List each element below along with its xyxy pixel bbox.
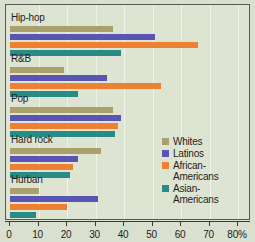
bar — [10, 26, 113, 32]
chart-legend: WhitesLatinosAfrican-AmericansAsian-Amer… — [162, 136, 248, 206]
legend-item: African-Americans — [162, 160, 248, 182]
x-tick — [123, 222, 124, 226]
bar — [10, 107, 113, 113]
legend-swatch-icon — [162, 185, 169, 192]
x-axis — [5, 221, 250, 222]
x-tick-label: 30 — [89, 229, 100, 240]
bar — [10, 115, 121, 121]
x-tick — [66, 222, 67, 226]
bar — [10, 204, 67, 210]
bars — [10, 26, 249, 58]
x-tick — [9, 222, 10, 226]
x-tick-label: 40 — [118, 229, 129, 240]
bar — [10, 196, 98, 202]
legend-item: Whites — [162, 136, 248, 147]
bar — [10, 148, 101, 154]
bar — [10, 42, 198, 48]
x-tick-label: 20 — [61, 229, 72, 240]
x-tick-label: 50 — [146, 229, 157, 240]
legend-item: Asian-Americans — [162, 183, 248, 205]
bar — [10, 123, 118, 129]
x-tick-label: 70 — [203, 229, 214, 240]
x-tick-label: 10 — [32, 229, 43, 240]
legend-label: Whites — [173, 136, 202, 147]
x-tick — [152, 222, 153, 226]
category-label: Hurban — [11, 175, 43, 185]
category-label: Hard rock — [11, 135, 53, 145]
bar — [10, 67, 64, 73]
x-tick — [38, 222, 39, 226]
category-label: Hip-hop — [11, 13, 45, 23]
bar-chart: Hip-hopR&BPopHard rockHurban WhitesLatin… — [0, 0, 255, 242]
legend-label: Asian-Americans — [173, 183, 218, 205]
legend-item: Latinos — [162, 148, 248, 159]
x-tick-label: 60 — [175, 229, 186, 240]
x-tick-label: 0 — [6, 229, 11, 240]
bars — [10, 67, 249, 99]
legend-label: African-Americans — [173, 160, 218, 182]
category-label: R&B — [11, 54, 31, 64]
bar — [10, 188, 39, 194]
x-tick — [209, 222, 210, 226]
bar — [10, 156, 78, 162]
bar — [10, 212, 36, 218]
x-tick — [180, 222, 181, 226]
legend-swatch-icon — [162, 150, 169, 157]
x-tick-label: 80% — [227, 229, 246, 240]
legend-swatch-icon — [162, 138, 169, 145]
category-label: Pop — [11, 94, 28, 104]
bar — [10, 34, 155, 40]
x-tick — [237, 222, 238, 226]
bar — [10, 83, 161, 89]
legend-swatch-icon — [162, 162, 169, 169]
legend-label: Latinos — [173, 148, 204, 159]
x-tick — [95, 222, 96, 226]
bar — [10, 75, 107, 81]
bar — [10, 164, 73, 170]
